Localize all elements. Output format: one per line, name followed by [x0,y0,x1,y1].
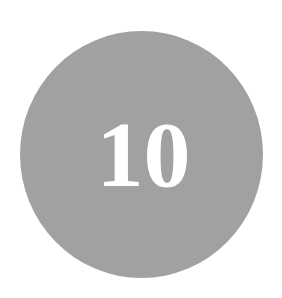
number-badge: 10 [20,31,263,278]
badge-number: 10 [97,107,191,201]
